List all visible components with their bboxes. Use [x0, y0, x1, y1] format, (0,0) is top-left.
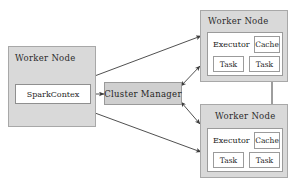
worker-node-bottom[interactable]: Worker Node Executor Cache Task Task	[200, 104, 288, 178]
arrow-cluster-manager-to-worker-bottom	[181, 102, 200, 124]
cluster-manager-box[interactable]: Cluster Manager	[104, 82, 182, 105]
executor-shell-top: Executor Cache Task Task	[207, 32, 283, 76]
task-box-bottom-1[interactable]: Task	[213, 152, 244, 168]
executor-shell-bottom: Executor Cache Task Task	[207, 128, 283, 172]
diagram-canvas: Worker Node SparkContex Cluster Manager …	[0, 0, 294, 186]
driver-worker-node-title: Worker Node	[15, 53, 76, 63]
task-box-top-1[interactable]: Task	[213, 56, 244, 72]
task-box-top-2[interactable]: Task	[249, 56, 280, 72]
driver-worker-node[interactable]: Worker Node SparkContex	[8, 46, 96, 127]
worker-node-top[interactable]: Worker Node Executor Cache Task Task	[200, 10, 288, 82]
sparkcontext-box[interactable]: SparkContex	[15, 84, 91, 104]
worker-node-top-title: Worker Node	[208, 16, 269, 26]
task-box-bottom-2[interactable]: Task	[249, 152, 280, 168]
worker-node-bottom-title: Worker Node	[215, 111, 276, 121]
arrow-cluster-manager-to-worker-top	[181, 66, 200, 86]
executor-label-top: Executor	[213, 40, 250, 49]
executor-label-bottom: Executor	[213, 136, 250, 145]
cache-box-top[interactable]: Cache	[254, 36, 280, 53]
cache-box-bottom[interactable]: Cache	[254, 132, 280, 149]
